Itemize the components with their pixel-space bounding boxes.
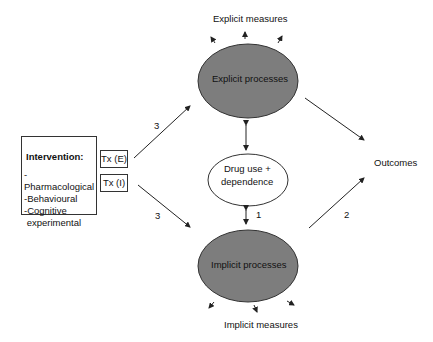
explicit-measure-arrow: [278, 36, 282, 43]
implicit-measure-arrow: [254, 305, 257, 312]
intervention-item: -Behavioural: [24, 193, 96, 205]
outcomes-label: Outcomes: [374, 158, 417, 169]
explicit-outcome-arrow: [305, 98, 364, 140]
explicit-measures-label: Explicit measures: [213, 14, 287, 25]
implicit-processes-label: Implicit processes: [211, 260, 287, 271]
intervention-box: Intervention: -Pharmacological -Behaviou…: [21, 136, 97, 215]
tx-explicit-box: Tx (E): [100, 150, 128, 168]
path-label-lower-right: 2: [344, 210, 349, 221]
drug-use-label-line2: dependence: [221, 177, 273, 188]
tx-implicit-box: Tx (I): [100, 174, 128, 192]
explicit-processes-label: Explicit processes: [212, 74, 288, 85]
explicit-measure-arrow: [211, 37, 215, 43]
intervention-title: Intervention:: [26, 151, 84, 162]
tx-explicit-arrow: [134, 106, 190, 158]
path-label-center: 1: [256, 210, 261, 221]
intervention-item: -Pharmacological: [24, 169, 96, 193]
implicit-measures-label: Implicit measures: [224, 320, 298, 331]
implicit-measure-arrow: [287, 301, 294, 305]
implicit-measure-arrow: [209, 302, 214, 308]
intervention-list: -Pharmacological -Behavioural -Cognitive…: [24, 169, 96, 229]
drug-use-label-line1: Drug use +: [224, 164, 271, 175]
intervention-item: experimental: [24, 217, 96, 229]
tx-implicit-arrow: [138, 185, 190, 227]
implicit-outcome-arrow: [309, 178, 364, 228]
path-label-lower-left: 3: [155, 211, 160, 222]
path-label-upper-left: 3: [154, 121, 159, 132]
intervention-item: -Cognitive: [24, 205, 96, 217]
